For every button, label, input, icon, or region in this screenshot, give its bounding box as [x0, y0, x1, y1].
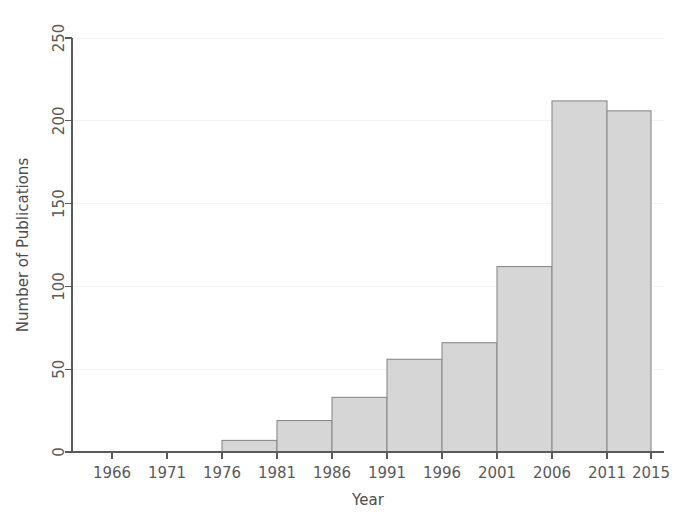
bar-1976-1981 [222, 440, 277, 452]
x-tick-label-1966: 1966 [93, 464, 131, 482]
x-tick-label-1976: 1976 [203, 464, 241, 482]
histogram-plot: 050100150200250 196619711976198119861991… [0, 0, 689, 523]
x-tick-label-1996: 1996 [423, 464, 461, 482]
y-axis-title: Number of Publications [14, 158, 32, 333]
bar-1991-1996 [387, 359, 442, 452]
x-tick-label-2015: 2015 [632, 464, 670, 482]
y-tick-label-150: 150 [50, 189, 68, 218]
y-tick-label-100: 100 [50, 272, 68, 301]
x-tick-label-1971: 1971 [148, 464, 186, 482]
x-axis-title: Year [351, 491, 385, 509]
x-tick-label-1986: 1986 [313, 464, 351, 482]
chart-figure: 050100150200250 196619711976198119861991… [0, 0, 689, 523]
x-tick-label-2006: 2006 [533, 464, 571, 482]
x-tick-label-1981: 1981 [258, 464, 296, 482]
x-tick-label-2001: 2001 [478, 464, 516, 482]
y-tick-label-250: 250 [50, 24, 68, 53]
y-tick-label-200: 200 [50, 106, 68, 135]
bar-1996-2001 [442, 343, 497, 452]
bar-2006-2011 [552, 101, 607, 452]
bar-2001-2006 [497, 267, 552, 452]
x-tick-label-1991: 1991 [368, 464, 406, 482]
y-tick-label-0: 0 [50, 447, 68, 457]
x-tick-label-2011: 2011 [588, 464, 626, 482]
bar-1986-1991 [332, 397, 387, 452]
bar-2011-2015 [607, 111, 651, 452]
bar-1981-1986 [277, 421, 332, 452]
y-tick-label-50: 50 [50, 360, 68, 379]
